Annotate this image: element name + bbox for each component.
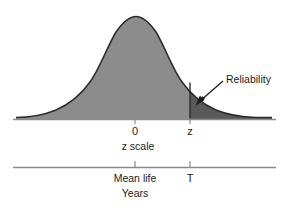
reliability-label: Reliability [226, 74, 271, 85]
curve-area-body [16, 17, 272, 120]
years-tick-label-mean-life: Mean life [114, 173, 157, 184]
reliability-normal-curve-figure: Reliability 0 z z scale Mean life T Year… [0, 0, 289, 207]
z-tick-label-zero: 0 [132, 126, 138, 137]
z-tick-label-z: z [187, 126, 193, 137]
z-scale-axis-label: z scale [122, 141, 155, 152]
years-tick-label-t: T [187, 173, 194, 184]
years-axis-label: Years [122, 188, 148, 199]
